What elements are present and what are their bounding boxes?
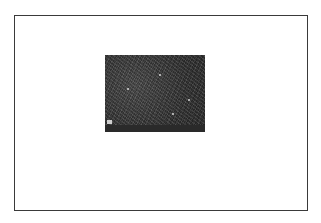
bright-particle [127,88,129,90]
sem-info-bar [105,125,205,132]
bright-particle [188,99,190,101]
sem-micrograph [105,55,205,132]
bright-particle [159,74,161,76]
bright-particle [172,113,174,115]
instrument-logo-icon [107,120,112,124]
